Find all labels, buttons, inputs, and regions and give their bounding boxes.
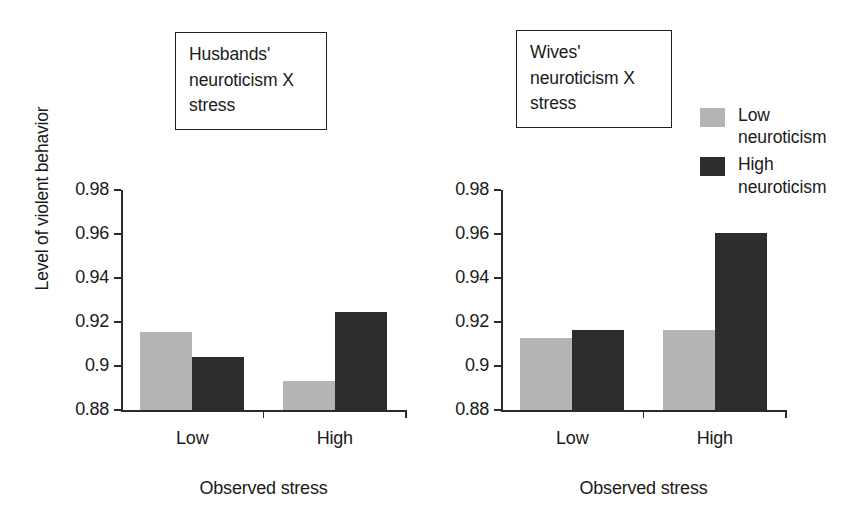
y-tick-label: 0.88: [455, 399, 489, 420]
y-tick-label: 0.96: [75, 223, 109, 244]
x-tick: [263, 410, 264, 418]
panel-title-wives: Wives' neuroticism X stress: [516, 30, 672, 128]
legend-item-low-neuroticism: Low neuroticism: [700, 104, 865, 148]
y-tick: 0.9: [494, 365, 501, 366]
panel-title-husbands: Husbands' neuroticism X stress: [175, 32, 327, 130]
legend-label-low-neuroticism: Low neuroticism: [738, 104, 826, 148]
bar: [283, 381, 335, 410]
plot-area-wives: 0.980.960.940.920.90.88 LowHigh Observed…: [501, 190, 786, 410]
y-tick-label: 0.9: [465, 355, 489, 376]
bar: [140, 332, 192, 410]
y-tick-label: 0.94: [75, 267, 109, 288]
bar: [572, 330, 624, 410]
y-tick: 0.92: [494, 321, 501, 322]
y-tick-label: 0.92: [455, 311, 489, 332]
x-tick: [643, 410, 644, 418]
y-axis-label: Level of violent behavior: [32, 87, 53, 311]
x-category-label: High: [317, 428, 353, 449]
y-tick: 0.88: [494, 409, 501, 410]
y-tick-label: 0.98: [75, 179, 109, 200]
y-axis-line: [121, 190, 123, 410]
y-tick: 0.94: [494, 277, 501, 278]
chart-panel-husbands: 0.980.960.940.920.90.88 LowHigh Observed…: [60, 180, 420, 500]
y-tick: 0.88: [114, 409, 121, 410]
y-tick-label: 0.94: [455, 267, 489, 288]
y-tick-label: 0.9: [85, 355, 109, 376]
x-tick: [785, 410, 786, 418]
y-tick-label: 0.98: [455, 179, 489, 200]
y-tick: 0.94: [114, 277, 121, 278]
y-tick: 0.98: [494, 189, 501, 190]
bar: [335, 312, 387, 410]
x-tick: [405, 410, 406, 418]
legend-swatch-high-neuroticism: [700, 157, 725, 176]
chart-panel-wives: 0.980.960.940.920.90.88 LowHigh Observed…: [440, 180, 800, 500]
x-axis-label: Observed stress: [121, 478, 406, 499]
y-tick: 0.92: [114, 321, 121, 322]
y-tick-label: 0.88: [75, 399, 109, 420]
x-axis-label: Observed stress: [501, 478, 786, 499]
x-category-label: Low: [176, 428, 208, 449]
y-tick: 0.98: [114, 189, 121, 190]
bar: [715, 233, 767, 410]
bar: [520, 338, 572, 410]
y-tick: 0.96: [494, 233, 501, 234]
bar: [192, 357, 244, 410]
y-tick-label: 0.92: [75, 311, 109, 332]
y-tick-label: 0.96: [455, 223, 489, 244]
x-category-label: High: [697, 428, 733, 449]
x-category-label: Low: [556, 428, 588, 449]
bar: [663, 330, 715, 410]
y-tick: 0.96: [114, 233, 121, 234]
legend-swatch-low-neuroticism: [700, 108, 725, 127]
y-axis-line: [501, 190, 503, 410]
plot-area-husbands: 0.980.960.940.920.90.88 LowHigh Observed…: [121, 190, 406, 410]
y-tick: 0.9: [114, 365, 121, 366]
